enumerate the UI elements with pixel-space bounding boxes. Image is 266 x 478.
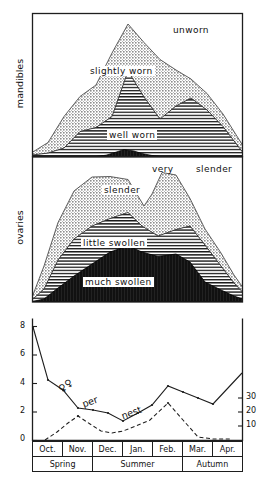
month-cell-dec: Dec.: [93, 442, 123, 456]
left-tick-2: 2: [20, 406, 25, 415]
annotation-very: very: [152, 164, 174, 174]
season-row: Spring Summer Autumn: [33, 457, 242, 471]
annotation-slender: slender: [102, 185, 142, 195]
month-cell-mar: Mar.: [183, 442, 213, 456]
left-tick-8: 8: [20, 321, 25, 330]
season-cell-autumn: Autumn: [183, 457, 242, 471]
month-cell-oct: Oct.: [33, 442, 63, 456]
right-tick-30: 30: [246, 392, 256, 401]
month-season-axis: Oct. Nov. Dec. Jan. Feb. Mar. Apr. Sprin…: [32, 441, 243, 472]
right-tick-20: 20: [246, 406, 256, 415]
axis-label-ovaries: ovaries: [14, 188, 25, 268]
month-cell-nov: Nov.: [63, 442, 93, 456]
annotation-well-worn: well worn: [107, 130, 157, 140]
annotation-slender-top: slender: [196, 164, 232, 174]
annotation-slightly-worn: slightly worn: [88, 66, 155, 76]
season-cell-summer: Summer: [93, 457, 183, 471]
annotation-much-swollen: much swollen: [83, 277, 154, 287]
month-row: Oct. Nov. Dec. Jan. Feb. Mar. Apr.: [33, 442, 242, 457]
annotation-little-swollen: little swollen: [81, 238, 147, 248]
left-tick-0: 0: [20, 434, 25, 443]
left-tick-4: 4: [20, 378, 25, 387]
figure-container: mandibles ovaries unworn slightly worn w…: [0, 0, 266, 478]
left-tick-6: 6: [20, 349, 25, 358]
right-tick-10: 10: [246, 420, 256, 429]
season-cell-spring: Spring: [33, 457, 93, 471]
month-cell-feb: Feb.: [153, 442, 183, 456]
annotation-unworn: unworn: [173, 25, 209, 35]
month-cell-apr: Apr.: [213, 442, 242, 456]
month-cell-jan: Jan.: [123, 442, 153, 456]
axis-label-mandibles: mandibles: [14, 44, 25, 124]
